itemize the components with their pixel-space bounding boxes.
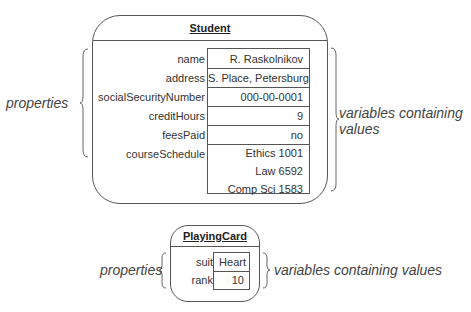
value-suit: Heart	[214, 256, 249, 268]
playingcard-values-table: Heart 10	[213, 252, 250, 290]
playingcard-properties-annotation: properties	[100, 262, 162, 278]
student-header-divider	[93, 40, 327, 41]
value-ssn: 000-00-0001	[208, 91, 309, 103]
student-properties-annotation: properties	[6, 95, 68, 111]
property-label-name: name	[177, 53, 205, 65]
property-label-ssn: socialSecurityNumber	[98, 91, 205, 103]
playingcard-header-divider	[171, 246, 259, 247]
row-divider	[208, 87, 309, 88]
value-name: R. Raskolnikov	[208, 53, 309, 65]
student-title: Student	[93, 22, 327, 34]
row-divider	[208, 144, 309, 145]
property-label-fees-paid: feesPaid	[162, 129, 205, 141]
student-values-table: R. Raskolnikov S. Place, Petersburg 000-…	[207, 48, 310, 194]
value-rank: 10	[214, 274, 249, 286]
value-course-1: Ethics 1001	[208, 147, 309, 159]
value-credit-hours: 9	[208, 110, 309, 122]
value-course-3: Comp Sci 1583	[208, 183, 309, 195]
row-divider	[208, 68, 309, 69]
value-fees-paid: no	[208, 129, 309, 141]
row-divider	[214, 271, 249, 272]
value-address: S. Place, Petersburg	[208, 72, 309, 84]
property-label-suit: suit	[196, 256, 213, 268]
left-brace-icon	[80, 48, 90, 158]
property-label-rank: rank	[192, 274, 213, 286]
row-divider	[208, 125, 309, 126]
student-variables-annotation: variables containing values	[339, 105, 463, 137]
value-course-2: Law 6592	[208, 165, 309, 177]
property-label-address: address	[166, 72, 205, 84]
playingcard-variables-annotation: variables containing values	[274, 262, 442, 278]
annotation-line-1: variables containing	[339, 105, 463, 121]
right-brace-icon	[262, 252, 272, 290]
property-label-course-schedule: courseSchedule	[126, 148, 205, 160]
student-object: Student name address socialSecurityNumbe…	[92, 15, 328, 204]
row-divider	[208, 106, 309, 107]
annotation-line-2: values	[339, 121, 463, 137]
playingcard-object: PlayingCard suit rank Heart 10	[170, 225, 260, 302]
property-label-credit-hours: creditHours	[149, 110, 205, 122]
playingcard-title: PlayingCard	[171, 230, 259, 242]
